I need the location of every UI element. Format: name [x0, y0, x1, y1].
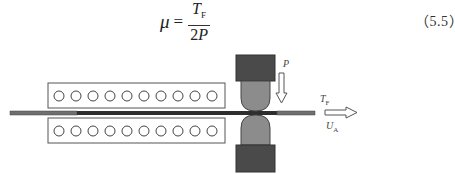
upper-furnace-box [48, 83, 225, 108]
upper-work-roll [241, 81, 270, 111]
velocity-subscript: A [333, 126, 338, 134]
velocity-label: UA [326, 120, 338, 134]
upper-roll-chock [236, 55, 275, 81]
strip-exit-segment [277, 111, 315, 115]
force-label: P [283, 58, 289, 69]
rolling-mill-diagram [0, 0, 455, 174]
tension-label: TF [320, 93, 329, 107]
tension-arrow-right-icon [325, 107, 357, 118]
force-arrow-down-icon [276, 73, 287, 103]
lower-furnace-box [48, 118, 225, 143]
lower-work-roll [241, 115, 270, 145]
strip-entry-segment [10, 111, 77, 115]
strip-heated-segment [77, 111, 277, 115]
lower-roll-chock [236, 145, 275, 172]
tension-subscript: F [326, 99, 330, 107]
